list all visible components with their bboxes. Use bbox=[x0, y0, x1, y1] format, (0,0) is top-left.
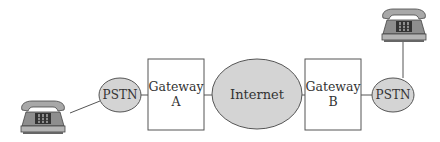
pstn-b-node: PSTN bbox=[372, 78, 414, 112]
gateway-b-label-line2: B bbox=[328, 94, 337, 109]
edge-phone-left-pstn-a bbox=[70, 101, 100, 113]
pstn-b-label: PSTN bbox=[376, 88, 411, 102]
internet-node: Internet bbox=[212, 59, 302, 129]
pstn-a-node: PSTN bbox=[99, 78, 141, 112]
internet-label: Internet bbox=[230, 87, 285, 102]
gateway-a-node: Gateway A bbox=[148, 59, 204, 130]
telephone-icon bbox=[382, 9, 426, 42]
network-diagram: PSTN Gateway A Internet Gateway B PSTN bbox=[0, 0, 440, 142]
pstn-a-label: PSTN bbox=[103, 88, 138, 102]
gateway-b-node: Gateway B bbox=[305, 59, 361, 130]
gateway-a-label-line2: A bbox=[170, 94, 181, 109]
telephone-icon bbox=[21, 101, 65, 134]
gateway-a-label-line1: Gateway bbox=[148, 79, 204, 94]
gateway-b-label-line1: Gateway bbox=[305, 79, 361, 94]
